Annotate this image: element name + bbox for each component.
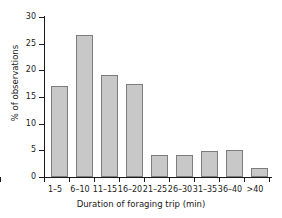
x-axis-tick-5 (169, 177, 170, 182)
plot-area (44, 17, 270, 177)
bar-11-15 (101, 75, 118, 177)
bar-16-20 (126, 84, 143, 177)
x-axis-tick-4 (144, 177, 145, 182)
y-axis-tick-label-30: 30 (12, 13, 36, 21)
x-axis-line (44, 177, 272, 178)
x-axis-tick-3 (119, 177, 120, 182)
bar-31-35 (201, 151, 218, 177)
bar-36-40 (226, 150, 243, 177)
x-axis-tick-8 (244, 177, 245, 182)
bar-26-30 (176, 155, 193, 177)
y-axis-title: % of observations (10, 23, 20, 143)
x-axis-tick-6 (194, 177, 195, 182)
x-axis-tick-9 (269, 177, 270, 182)
y-axis-tick-label-0: 0 (12, 173, 36, 181)
bar-chart-figure: 0 5 10 15 20 25 30 1–5 6–10 11–15 16–20 … (0, 0, 282, 218)
x-axis-title: Duration of foraging trip (min) (0, 199, 282, 209)
bar-6-10 (76, 35, 93, 177)
bar-over-40 (251, 168, 268, 177)
y-axis-tick-label-5: 5 (12, 146, 36, 154)
x-axis-tick-0 (44, 177, 45, 182)
x-axis-tick-1 (69, 177, 70, 182)
x-axis-tick-2b (94, 177, 95, 182)
x-axis-tick-2 (0, 177, 1, 182)
bar-21-25 (151, 155, 168, 177)
x-axis-category-label-8: >40 (236, 185, 274, 194)
bar-1-5 (51, 86, 68, 177)
x-axis-tick-7 (219, 177, 220, 182)
